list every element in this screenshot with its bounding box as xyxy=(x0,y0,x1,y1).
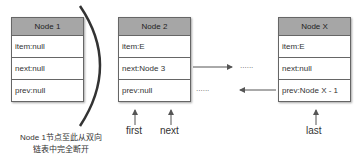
node-1: Node 1 item:null next:null prev:null xyxy=(11,17,84,102)
node-2-item: item:E xyxy=(119,36,190,58)
ellipsis-bottom: ...... xyxy=(196,84,209,93)
node-x-title: Node X xyxy=(279,18,350,36)
node-1-prev: prev:null xyxy=(12,80,83,101)
caption-line-1: Node 1节点至此从双向 xyxy=(2,132,120,144)
next-label: next xyxy=(160,125,179,136)
first-label: first xyxy=(126,125,142,136)
node-1-next: next:null xyxy=(12,58,83,80)
node-1-title: Node 1 xyxy=(12,18,83,36)
node-x: Node X item:E next:null prev:Node X - 1 xyxy=(278,17,351,102)
last-label: last xyxy=(306,125,322,136)
ellipsis-top: ...... xyxy=(240,61,253,70)
node-2-next: next:Node 3 xyxy=(119,58,190,80)
caption-line-2: 链表中完全断开 xyxy=(2,144,120,156)
node-2-prev: prev:null xyxy=(119,80,190,101)
node-1-item: item:null xyxy=(12,36,83,58)
node-2-title: Node 2 xyxy=(119,18,190,36)
node-x-next: next:null xyxy=(279,58,350,80)
node-x-prev: prev:Node X - 1 xyxy=(279,80,350,101)
caption: Node 1节点至此从双向 链表中完全断开 xyxy=(2,132,120,156)
node-2: Node 2 item:E next:Node 3 prev:null xyxy=(118,17,191,102)
node-x-item: item:E xyxy=(279,36,350,58)
